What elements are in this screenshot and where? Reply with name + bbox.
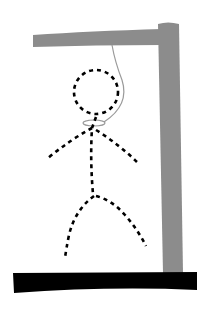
hangman-drawing: hangman	[0, 0, 212, 315]
figure-left-leg	[65, 196, 94, 258]
gallows-beam	[33, 29, 162, 47]
rope	[104, 45, 124, 122]
gallows-post	[158, 23, 183, 274]
figure-right-arm	[96, 130, 139, 164]
figure-left-arm	[48, 128, 92, 158]
gallows-base	[13, 272, 197, 293]
figure-right-leg	[96, 196, 146, 246]
figure-head	[74, 70, 118, 114]
